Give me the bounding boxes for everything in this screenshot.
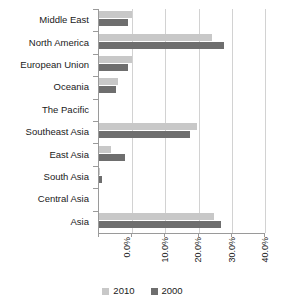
x-axis-tick-label: 40.0% bbox=[260, 237, 269, 263]
x-axis-tick bbox=[198, 233, 199, 237]
x-axis-tick bbox=[264, 233, 265, 237]
legend-label: 2010 bbox=[113, 286, 134, 296]
legend-item[interactable]: 2000 bbox=[151, 286, 183, 296]
y-axis-tick bbox=[93, 76, 98, 77]
x-axis-tick-labels: 0.0%10.0%20.0%30.0%40.0%50.0% bbox=[0, 237, 285, 277]
category-label: Asia bbox=[71, 217, 89, 227]
x-axis-tick-label: 20.0% bbox=[194, 237, 203, 263]
category-label: Central Asia bbox=[38, 194, 89, 204]
bar-2000 bbox=[99, 42, 224, 49]
category-label: North America bbox=[29, 38, 89, 48]
y-axis-tick bbox=[93, 188, 98, 189]
bar-chart: Middle EastNorth AmericaEuropean UnionOc… bbox=[0, 0, 285, 305]
category-axis-labels: Middle EastNorth AmericaEuropean UnionOc… bbox=[0, 9, 94, 233]
bar-group bbox=[99, 76, 265, 98]
legend-label: 2000 bbox=[162, 286, 183, 296]
x-axis-line bbox=[98, 233, 265, 234]
bar-group bbox=[99, 166, 265, 188]
bar-group bbox=[99, 121, 265, 143]
legend-swatch-icon bbox=[151, 288, 158, 295]
bar-2000 bbox=[99, 176, 102, 183]
bar-2010 bbox=[99, 34, 212, 41]
y-axis-tick bbox=[93, 99, 98, 100]
bar-2000 bbox=[99, 64, 128, 71]
bar-group bbox=[99, 31, 265, 53]
bar-2010 bbox=[99, 11, 132, 18]
bar-group bbox=[99, 9, 265, 31]
category-label: Southeast Asia bbox=[26, 127, 89, 137]
x-axis-tick bbox=[131, 233, 132, 237]
bar-group bbox=[99, 188, 265, 210]
y-axis-tick bbox=[93, 54, 98, 55]
x-axis-tick bbox=[231, 233, 232, 237]
bar-group bbox=[99, 143, 265, 165]
y-axis-tick bbox=[93, 9, 98, 10]
bar-2000 bbox=[99, 154, 125, 161]
bar-2010 bbox=[99, 168, 100, 175]
chart-legend: 20102000 bbox=[0, 283, 285, 299]
x-axis-tick-label: 0.0% bbox=[123, 237, 132, 258]
category-label: South Asia bbox=[44, 172, 89, 182]
y-axis-tick bbox=[93, 166, 98, 167]
bar-2010 bbox=[99, 78, 118, 85]
bar-group bbox=[99, 211, 265, 233]
bar-2010 bbox=[99, 146, 111, 153]
bar-2010 bbox=[99, 213, 214, 220]
y-axis-tick bbox=[93, 121, 98, 122]
y-axis-tick bbox=[93, 143, 98, 144]
gridline bbox=[265, 9, 266, 233]
x-axis-tick-label: 10.0% bbox=[161, 237, 170, 263]
x-axis-tick bbox=[164, 233, 165, 237]
bar-2000 bbox=[99, 131, 190, 138]
bar-2010 bbox=[99, 123, 197, 130]
legend-swatch-icon bbox=[102, 288, 109, 295]
bar-group bbox=[99, 54, 265, 76]
bar-2010 bbox=[99, 56, 132, 63]
plot-area bbox=[98, 9, 265, 233]
category-label: Oceania bbox=[54, 82, 89, 92]
category-label: European Union bbox=[20, 60, 89, 70]
category-label: East Asia bbox=[49, 150, 89, 160]
bar-group bbox=[99, 99, 265, 121]
bar-2000 bbox=[99, 221, 221, 228]
y-axis-tick bbox=[93, 211, 98, 212]
category-label: Middle East bbox=[39, 15, 89, 25]
x-axis-tick bbox=[98, 233, 99, 237]
legend-item[interactable]: 2010 bbox=[102, 286, 134, 296]
bar-2000 bbox=[99, 19, 128, 26]
category-label: The Pacific bbox=[42, 105, 89, 115]
bar-2000 bbox=[99, 86, 116, 93]
x-axis-tick-label: 30.0% bbox=[227, 237, 236, 263]
y-axis-tick bbox=[93, 31, 98, 32]
